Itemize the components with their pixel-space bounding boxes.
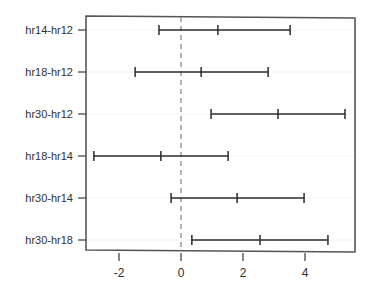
x-axis-tick-labels: -2024: [114, 266, 309, 280]
y-axis-ticks: [78, 30, 86, 240]
confidence-interval-row: [135, 67, 268, 77]
confidence-interval-row: [192, 235, 328, 245]
y-axis-category-label: hr18-hr12: [25, 66, 73, 78]
y-axis-category-label: hr14-hr12: [25, 24, 73, 36]
confidence-interval-row: [211, 109, 345, 119]
y-axis-category-label: hr30-hr14: [25, 192, 73, 204]
confidence-interval-row: [159, 25, 290, 35]
x-axis-tick-label: -2: [114, 266, 125, 280]
confidence-interval-row: [171, 193, 304, 203]
y-axis-labels: hr14-hr12hr18-hr12hr30-hr12hr18-hr14hr30…: [25, 24, 73, 246]
gridlines: [86, 30, 355, 240]
x-axis-tick-label: 4: [302, 266, 309, 280]
x-axis-ticks: [119, 253, 305, 261]
plot-border: [86, 16, 355, 252]
confidence-interval-row: [94, 151, 228, 161]
confidence-interval-plot: hr14-hr12hr18-hr12hr30-hr12hr18-hr14hr30…: [0, 0, 365, 307]
confidence-intervals: [94, 25, 345, 245]
y-axis-category-label: hr30-hr12: [25, 108, 73, 120]
y-axis-category-label: hr30-hr18: [25, 234, 73, 246]
plot-frame: [86, 16, 355, 252]
y-axis-category-label: hr18-hr14: [25, 150, 73, 162]
x-axis-tick-label: 0: [178, 266, 185, 280]
plot-canvas: hr14-hr12hr18-hr12hr30-hr12hr18-hr14hr30…: [0, 0, 365, 307]
x-axis-tick-label: 2: [240, 266, 247, 280]
